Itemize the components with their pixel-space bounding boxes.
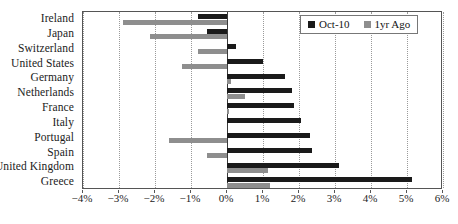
bar-current [227,118,301,123]
legend-swatch-prior [364,21,371,28]
legend-entry: 1yr Ago [364,18,411,30]
bar-prior [227,168,268,173]
category-label: United Kingdom [0,159,74,174]
bar-current [227,133,310,138]
bar-group [83,57,441,72]
category-label: United States [11,56,74,71]
category-label: Italy [52,115,74,130]
bar-current [207,29,227,34]
category-label: France [42,100,74,115]
category-label: Germany [31,70,75,85]
category-label: Portugal [34,130,74,145]
category-label: Greece [41,174,74,189]
bar-prior [198,49,227,54]
bar-prior [227,79,231,84]
axis-tick-label: −2% [144,192,165,204]
axis-tick-label: 2% [291,192,306,204]
bar-current [227,59,263,64]
bar-group [83,146,441,161]
category-axis: IrelandJapanSwitzerlandUnited StatesGerm… [0,11,78,189]
category-label: Ireland [41,11,74,26]
bar-current [227,148,312,153]
bar-group [83,175,441,190]
plot-area [82,11,442,189]
inflation-bar-chart: IrelandJapanSwitzerlandUnited StatesGerm… [0,0,458,224]
axis-tick-label: 3% [327,192,342,204]
bar-current [227,44,236,49]
bar-current [227,163,339,168]
category-label: Japan [47,26,74,41]
bar-current [198,14,227,19]
chart-legend: Oct-101yr Ago [300,15,418,34]
bar-group [83,86,441,101]
legend-label: 1yr Ago [375,18,411,30]
bar-current [227,88,292,93]
bar-current [227,177,412,182]
bar-prior [207,153,227,158]
bar-group [83,42,441,57]
axis-tick-label: −3% [108,192,129,204]
axis-tick-label: 0% [219,192,234,204]
bar-group [83,116,441,131]
axis-tick-label: −4% [72,192,93,204]
bar-prior [150,34,227,39]
category-label: Netherlands [17,85,74,100]
bar-prior [227,94,245,99]
bar-current [227,74,285,79]
category-label: Switzerland [18,41,74,56]
legend-swatch-current [308,21,315,28]
legend-label: Oct-10 [319,18,350,30]
value-axis: −4%−3%−2%−1%0%1%2%3%4%5%6% [82,190,442,210]
axis-tick-label: 1% [255,192,270,204]
bar-group [83,131,441,146]
axis-tick-label: −1% [180,192,201,204]
axis-tick-label: 5% [399,192,414,204]
gridline [443,12,445,188]
category-label: Spain [47,145,74,160]
axis-tick-label: 6% [435,192,450,204]
bar-prior [123,20,227,25]
legend-entry: Oct-10 [308,18,350,30]
bar-prior [169,138,227,143]
axis-tick-label: 4% [363,192,378,204]
bar-prior [227,183,270,188]
bar-group [83,71,441,86]
bar-group [83,160,441,175]
bar-group [83,101,441,116]
bar-current [227,103,294,108]
bar-prior [227,109,229,114]
bar-prior [182,64,227,69]
